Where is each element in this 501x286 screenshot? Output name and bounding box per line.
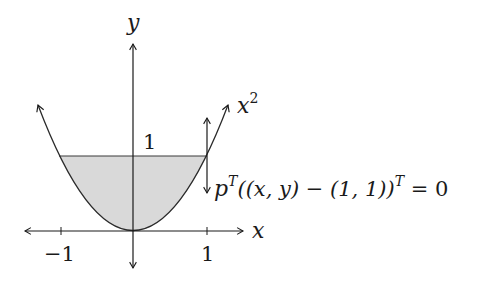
tick-label-neg1: −1 xyxy=(44,242,75,266)
y-axis-label: y xyxy=(126,10,140,35)
y-tick-label-1: 1 xyxy=(143,130,156,154)
tick-label-1: 1 xyxy=(201,242,214,266)
x-axis-label: x xyxy=(252,218,265,243)
constraint-equation: pT((x, y) − (1, 1))T = 0 xyxy=(214,173,448,201)
curve-label: x2 xyxy=(237,90,258,118)
diagram-canvas: y x −1 1 1 x2 pT((x, y) − (1, 1))T = 0 xyxy=(0,0,501,286)
